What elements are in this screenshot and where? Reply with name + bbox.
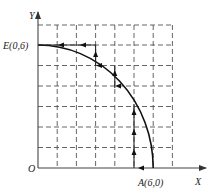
origin-label: O (28, 163, 35, 174)
left-arrow-icon (138, 166, 144, 171)
up-arrow-icon (132, 129, 137, 135)
up-arrow-icon (132, 149, 137, 155)
coordinate-diagram: Y X O E(0,6) A(6,0) (0, 0, 224, 193)
left-arrow-icon (115, 84, 121, 89)
up-arrow-icon (112, 70, 117, 76)
up-arrow-icon (132, 109, 137, 115)
point-e-label: E(0,6) (2, 40, 29, 52)
x-axis-label: X (194, 176, 202, 187)
y-axis-label: Y (29, 10, 36, 21)
point-a-label: A(6,0) (137, 177, 164, 189)
up-arrow-icon (93, 51, 98, 57)
left-arrow-icon (80, 43, 86, 48)
